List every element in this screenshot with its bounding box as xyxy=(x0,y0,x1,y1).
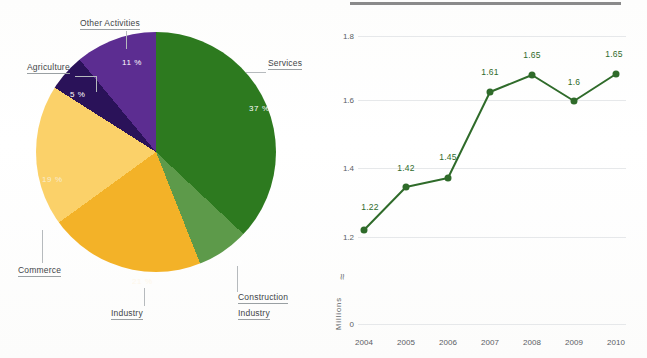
xtick-2009: 2009 xyxy=(565,338,583,347)
pie-chart xyxy=(36,32,276,272)
leader-industry xyxy=(144,288,145,306)
y-axis-label: Millions xyxy=(334,297,343,330)
pie-slice-pct-commerce: 19 % xyxy=(42,175,63,184)
data-label-2009: 1.6 xyxy=(568,77,581,87)
leader-agriculture-v xyxy=(96,76,97,92)
xtick-2007: 2007 xyxy=(481,338,499,347)
xtick-2006: 2006 xyxy=(439,338,457,347)
data-point-2007[interactable] xyxy=(487,89,494,96)
pie-slice-pct-industry: 21 % xyxy=(132,277,153,286)
leader-commerce xyxy=(42,230,43,263)
data-point-2005[interactable] xyxy=(403,184,410,191)
xtick-2010: 2010 xyxy=(607,338,625,347)
data-point-2006[interactable] xyxy=(445,175,452,182)
data-label-2007: 1.61 xyxy=(481,67,499,77)
leader-services xyxy=(246,72,266,73)
data-label-2008: 1.65 xyxy=(523,50,541,60)
data-label-2010: 1.65 xyxy=(605,49,623,59)
pie-label-construction-line2: Industry xyxy=(238,308,270,320)
pie-slice-pct-construction: 7 % xyxy=(228,258,244,267)
line-chart-plot: 1.8 1.6 1.4 1.2 0 ≈ Millions 1.22 1.42 1… xyxy=(358,30,626,330)
leader-construction xyxy=(237,266,238,292)
data-point-2010[interactable] xyxy=(613,71,620,78)
ytick-1-4: 1.4 xyxy=(343,164,354,173)
pie-label-services: Services xyxy=(268,58,302,70)
pie-label-agriculture: Agriculture xyxy=(27,62,70,74)
data-point-2008[interactable] xyxy=(529,72,536,79)
ytick-0: 0 xyxy=(350,320,354,329)
pie-label-other-activities: Other Activities xyxy=(80,18,140,30)
pie-label-commerce: Commerce xyxy=(18,265,61,277)
pie-slice-pct-other-activities: 11 % xyxy=(122,58,142,67)
xtick-2008: 2008 xyxy=(523,338,541,347)
pie-label-industry: Industry xyxy=(111,308,143,320)
line-chart-panel: 1.8 1.6 1.4 1.2 0 ≈ Millions 1.22 1.42 1… xyxy=(330,0,647,358)
axis-break-icon: ≈ xyxy=(336,274,348,280)
data-point-2004[interactable] xyxy=(361,227,368,234)
xtick-2004: 2004 xyxy=(355,338,373,347)
data-label-2005: 1.42 xyxy=(397,163,415,173)
ytick-1-6: 1.6 xyxy=(343,96,354,105)
data-point-2009[interactable] xyxy=(571,98,578,105)
ytick-1-8: 1.8 xyxy=(343,32,354,41)
pie-slice-pct-services: 37 % xyxy=(249,104,270,113)
leader-other-activities xyxy=(126,31,127,49)
data-label-2004: 1.22 xyxy=(361,202,379,212)
leader-agriculture-h xyxy=(75,76,97,77)
data-label-2006: 1.45 xyxy=(439,152,457,162)
xtick-2005: 2005 xyxy=(397,338,415,347)
pie-label-construction-line1: Construction xyxy=(238,292,288,304)
pie-chart-panel: 37 % 7 % 21 % 19 % 5 % 11 % Other Activi… xyxy=(0,0,330,358)
ytick-1-2: 1.2 xyxy=(343,233,354,242)
pie-slice-pct-agriculture: 5 % xyxy=(70,90,86,99)
